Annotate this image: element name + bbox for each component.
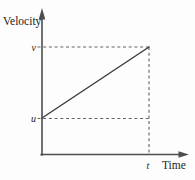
t-tick-label: t: [147, 160, 150, 171]
u-tick-label: u: [31, 113, 36, 124]
velocity-plot-line: [42, 47, 149, 118]
velocity-time-graph: Velocity Time v u t: [0, 0, 195, 180]
x-axis-arrow-icon: [179, 151, 190, 158]
y-axis-label: Velocity: [3, 15, 42, 28]
x-axis-label: Time: [162, 159, 186, 171]
graph-canvas: Velocity Time v u t: [0, 0, 195, 180]
v-tick-label: v: [32, 42, 37, 53]
